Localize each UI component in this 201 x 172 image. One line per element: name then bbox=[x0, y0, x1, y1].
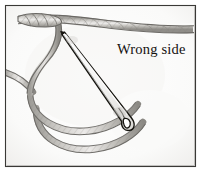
figure-frame: Wrong side bbox=[0, 0, 201, 172]
sewing-diagram-illustration bbox=[0, 0, 201, 172]
